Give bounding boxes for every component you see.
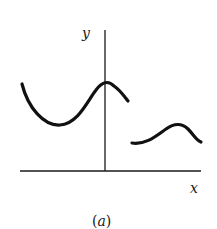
x-axis-label: x — [190, 181, 198, 195]
curve-left-segment — [22, 83, 128, 126]
caption-text: (a) — [92, 213, 111, 229]
y-axis-label: y — [82, 26, 90, 40]
curve-right-segment — [132, 125, 201, 144]
figure-caption: (a) — [92, 214, 111, 228]
function-graph-figure: y x (a) — [0, 0, 217, 229]
graph-canvas — [0, 0, 217, 229]
caption-letter: a — [97, 213, 105, 229]
